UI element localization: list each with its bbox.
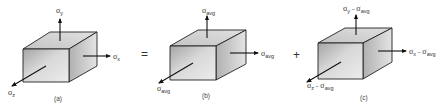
caption-a: (a) xyxy=(54,95,62,103)
label-sigma-z-minus-avg: σz − σavg xyxy=(307,81,334,91)
label-sigma-y-minus-avg: σy − σavg xyxy=(343,4,370,14)
equals-sign: = xyxy=(141,47,148,61)
label-sigma-avg-z: σavg xyxy=(157,84,170,94)
panel-a: σy σx σz (a) xyxy=(8,6,120,103)
cube-c xyxy=(318,28,392,79)
label-sigma-x: σx xyxy=(113,52,120,62)
stress-decomposition-diagram: σy σx σz (a) = σavg σavg σavg (b) + xyxy=(0,0,445,110)
cube-c-front-face xyxy=(318,43,363,79)
caption-b: (b) xyxy=(202,92,210,100)
label-sigma-avg-x: σavg xyxy=(261,49,274,59)
caption-c: (c) xyxy=(360,94,368,102)
label-sigma-y: σy xyxy=(56,6,63,16)
panel-c: σy − σavg σx − σavg σz − σavg (c) xyxy=(307,4,436,102)
cube-a-front-face xyxy=(23,49,69,82)
label-sigma-avg-y: σavg xyxy=(202,6,215,16)
plus-sign: + xyxy=(293,48,300,62)
label-sigma-z: σz xyxy=(8,88,15,98)
panel-b: σavg σavg σavg (b) xyxy=(157,6,274,100)
label-sigma-x-minus-avg: σx − σavg xyxy=(409,47,436,57)
cube-b xyxy=(170,30,246,80)
